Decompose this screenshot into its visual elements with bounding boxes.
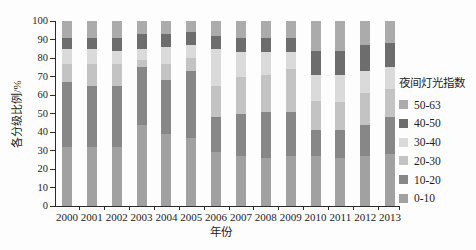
y-tick-100: [50, 21, 55, 22]
bar-segment-2012-0-10: [360, 156, 370, 206]
bar-segment-2013-30-40: [385, 67, 395, 89]
legend-swatch-40-50: [399, 119, 408, 128]
bar-segment-2006-20-30: [211, 86, 221, 117]
bar-2013: [385, 21, 395, 206]
plot-area: 0102030405060708090100200020012002200320…: [55, 21, 400, 207]
y-tick-label-30: 30: [10, 145, 48, 157]
bar-segment-2002-50-63: [112, 21, 122, 38]
bar-segment-2009-10-20: [286, 112, 296, 156]
bar-segment-2008-0-10: [261, 158, 271, 206]
bar-segment-2004-50-63: [161, 21, 171, 34]
bar-2001: [87, 21, 97, 206]
bar-2004: [161, 21, 171, 206]
y-tick-10: [50, 187, 55, 188]
y-tick-label-60: 60: [10, 89, 48, 101]
bar-segment-2002-40-50: [112, 38, 122, 51]
x-tick: [154, 206, 155, 210]
x-tick: [328, 206, 329, 210]
bar-segment-2013-50-63: [385, 21, 395, 43]
y-tick-40: [50, 132, 55, 133]
bar-segment-2000-20-30: [62, 64, 72, 83]
bar-segment-2004-0-10: [161, 134, 171, 206]
legend-title: 夜间灯光指数: [399, 74, 465, 90]
bar-2006: [211, 21, 221, 206]
bar-segment-2012-40-50: [360, 45, 370, 71]
bar-segment-2008-40-50: [261, 38, 271, 53]
bar-2011: [335, 21, 345, 206]
bar-segment-2012-20-30: [360, 93, 370, 124]
bar-segment-2000-40-50: [62, 38, 72, 49]
bar-segment-2001-10-20: [87, 86, 97, 147]
y-tick-label-70: 70: [10, 71, 48, 83]
bar-segment-2010-30-40: [311, 75, 321, 101]
bar-segment-2011-50-63: [335, 21, 345, 51]
bar-segment-2006-50-63: [211, 21, 221, 36]
bar-segment-2013-10-20: [385, 117, 395, 154]
bar-segment-2005-20-30: [186, 58, 196, 71]
legend-item-10-20: 10-20: [399, 173, 465, 186]
legend-label-40-50: 40-50: [414, 117, 441, 129]
bar-segment-2012-10-20: [360, 125, 370, 156]
bar-segment-2009-20-30: [286, 69, 296, 112]
x-tick: [278, 206, 279, 210]
bar-segment-2010-0-10: [311, 156, 321, 206]
bar-segment-2003-20-30: [137, 60, 147, 67]
legend-items: 50-6340-5030-4020-3010-200-10: [399, 98, 465, 205]
bar-segment-2011-20-30: [335, 102, 345, 130]
bar-segment-2003-50-63: [137, 21, 147, 34]
y-tick-label-100: 100: [10, 15, 48, 27]
bar-segment-2005-30-40: [186, 45, 196, 58]
bar-2002: [112, 21, 122, 206]
bar-segment-2007-50-63: [236, 21, 246, 38]
bar-segment-2006-40-50: [211, 36, 221, 49]
bar-segment-2011-10-20: [335, 130, 345, 158]
bar-2009: [286, 21, 296, 206]
bar-segment-2008-30-40: [261, 52, 271, 74]
bar-segment-2004-20-30: [161, 64, 171, 81]
bar-segment-2003-40-50: [137, 34, 147, 49]
chart-figure: 各分级比例/% 01020304050607080901002000200120…: [0, 0, 476, 250]
legend-label-0-10: 0-10: [414, 192, 435, 204]
x-tick: [253, 206, 254, 210]
y-tick-label-10: 10: [10, 182, 48, 194]
bar-2003: [137, 21, 147, 206]
bar-segment-2000-10-20: [62, 82, 72, 147]
x-tick: [229, 206, 230, 210]
bar-segment-2000-0-10: [62, 147, 72, 206]
bar-segment-2000-50-63: [62, 21, 72, 38]
bar-segment-2003-10-20: [137, 67, 147, 124]
bar-segment-2007-40-50: [236, 38, 246, 53]
bar-segment-2001-30-40: [87, 49, 97, 64]
bar-segment-2013-40-50: [385, 43, 395, 67]
legend-label-10-20: 10-20: [414, 174, 441, 186]
bar-segment-2006-30-40: [211, 49, 221, 86]
bar-segment-2001-50-63: [87, 21, 97, 38]
bar-segment-2006-0-10: [211, 152, 221, 206]
x-tick: [179, 206, 180, 210]
legend-swatch-50-63: [399, 100, 408, 109]
bar-segment-2006-10-20: [211, 117, 221, 152]
bar-segment-2013-0-10: [385, 154, 395, 206]
bar-segment-2011-40-50: [335, 51, 345, 75]
bar-segment-2009-40-50: [286, 38, 296, 53]
y-tick-label-80: 80: [10, 52, 48, 64]
bar-segment-2010-50-63: [311, 21, 321, 51]
bar-segment-2012-30-40: [360, 71, 370, 93]
bar-2005: [186, 21, 196, 206]
x-tick: [303, 206, 304, 210]
y-tick-label-40: 40: [10, 126, 48, 138]
x-tick: [353, 206, 354, 210]
x-tick: [129, 206, 130, 210]
bar-segment-2004-40-50: [161, 34, 171, 47]
bar-segment-2002-20-30: [112, 64, 122, 86]
legend-label-50-63: 50-63: [414, 99, 441, 111]
y-tick-80: [50, 58, 55, 59]
legend-item-0-10: 0-10: [399, 192, 465, 205]
legend-item-40-50: 40-50: [399, 117, 465, 130]
x-axis-title: 年份: [210, 223, 232, 239]
y-tick-label-50: 50: [10, 108, 48, 120]
bar-segment-2000-30-40: [62, 49, 72, 64]
legend-label-20-30: 20-30: [414, 155, 441, 167]
legend-item-50-63: 50-63: [399, 98, 465, 111]
bar-segment-2003-0-10: [137, 125, 147, 206]
